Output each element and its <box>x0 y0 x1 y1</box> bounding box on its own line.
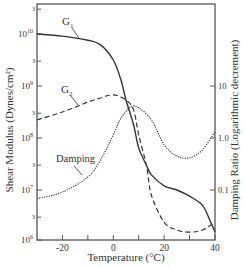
label-damping: Damping <box>56 153 96 164</box>
series-g1 <box>37 34 215 232</box>
y-axis-right-ticks: 101.00.1 <box>210 81 229 195</box>
y-axis-left-label: Shear Modulus (Dynes/cm²) <box>3 67 16 192</box>
y-axis-right-label: Damping Ratio (Logarithmic decrement) <box>228 39 241 220</box>
y-right-tick-label: 10 <box>218 81 227 91</box>
shear-modulus-damping-chart: -2002040 101010910810710633333 101.00.1 … <box>0 0 246 268</box>
y-minor-tick-label: 3 <box>32 6 35 12</box>
y-minor-tick-label: 3 <box>32 58 35 64</box>
data-series <box>37 34 215 232</box>
y-tick-label: 107 <box>21 184 33 195</box>
y-minor-tick-label: 3 <box>32 162 35 168</box>
curve-annotations: G1G2Damping <box>56 15 96 175</box>
label-g2: G2 <box>61 83 73 98</box>
leader-damping <box>74 166 82 175</box>
x-axis-label: Temperature (°C) <box>87 251 165 264</box>
x-tick-label: -20 <box>56 243 69 253</box>
y-tick-label: 1010 <box>18 28 33 39</box>
y-tick-label: 106 <box>21 234 33 245</box>
y-axis-left-ticks: 101010910810710633333 <box>18 6 42 245</box>
y-minor-tick-label: 3 <box>32 214 35 220</box>
x-tick-label: 40 <box>210 243 220 253</box>
leader-g2 <box>71 96 78 105</box>
plot-frame <box>37 4 215 240</box>
label-g1: G1 <box>62 15 74 30</box>
plot-border <box>37 4 215 240</box>
y-tick-label: 109 <box>21 80 33 91</box>
leader-g1 <box>72 28 79 38</box>
y-tick-label: 108 <box>21 132 33 143</box>
y-minor-tick-label: 3 <box>32 110 35 116</box>
